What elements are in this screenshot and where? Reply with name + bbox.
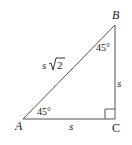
side-label-ab: s 2	[42, 58, 65, 71]
side-label-ab-radicand: 2	[57, 59, 63, 71]
side-label-ab-base: s	[42, 59, 46, 71]
side-label-ac: s	[69, 120, 73, 132]
vertex-label-c: C	[112, 121, 120, 135]
triangle-diagram: A B C 45° 45° s s s 2	[0, 0, 132, 145]
angle-label-b: 45°	[96, 42, 110, 53]
side-ab	[23, 25, 115, 119]
right-angle-marker	[105, 109, 115, 119]
angle-label-a: 45°	[37, 106, 51, 117]
vertex-label-b: B	[112, 8, 120, 22]
vertex-label-a: A	[14, 119, 23, 133]
side-label-bc: s	[117, 77, 121, 89]
